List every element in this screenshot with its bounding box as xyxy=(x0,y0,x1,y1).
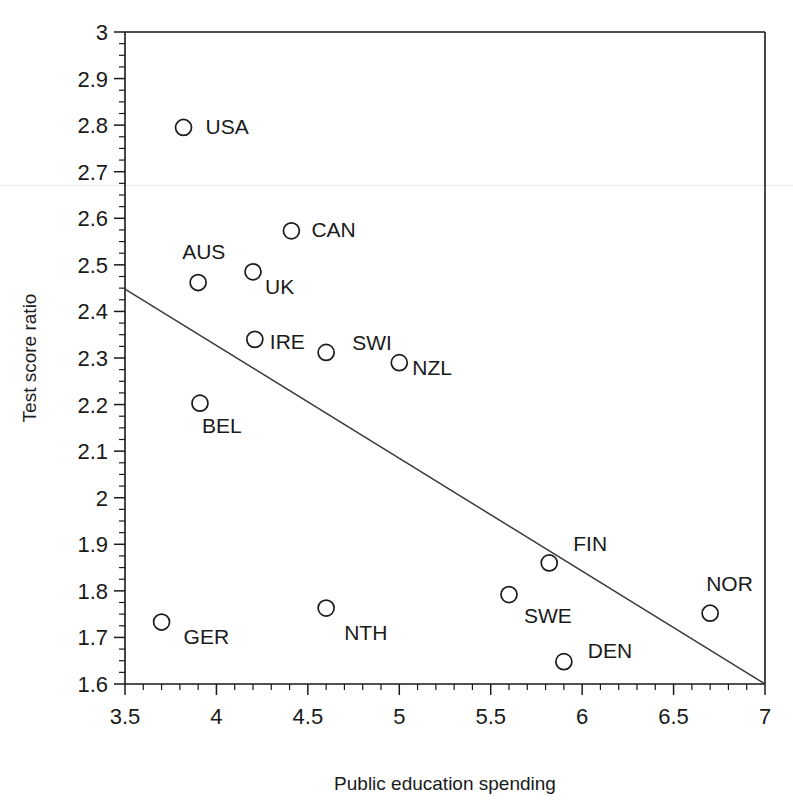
y-tick-label: 1.7 xyxy=(77,625,108,650)
point-label: NZL xyxy=(412,356,452,379)
y-tick-label: 2.3 xyxy=(77,346,108,371)
chart-canvas: 1.61.71.81.922.12.22.32.42.52.62.72.82.9… xyxy=(0,0,793,811)
point-marker xyxy=(247,331,263,347)
data-point-swe: SWE xyxy=(501,587,572,627)
point-marker xyxy=(556,654,572,670)
x-tick-label: 5 xyxy=(393,704,405,729)
data-point-nzl: NZL xyxy=(391,355,452,379)
y-axis-title: Test score ratio xyxy=(19,294,40,423)
point-label: DEN xyxy=(588,639,632,662)
point-label: SWI xyxy=(352,331,392,354)
y-tick-label: 2 xyxy=(96,486,108,511)
x-tick-label: 5.5 xyxy=(475,704,506,729)
x-tick-label: 6 xyxy=(576,704,588,729)
point-marker xyxy=(192,395,208,411)
point-marker xyxy=(318,344,334,360)
point-label: IRE xyxy=(270,330,305,353)
data-points-group: USACANAUSUKIRESWINZLBELFINSWENORDENGERNT… xyxy=(154,115,753,669)
data-point-usa: USA xyxy=(176,115,249,138)
point-marker xyxy=(190,275,206,291)
point-label: FIN xyxy=(573,532,607,555)
point-label: NTH xyxy=(344,621,387,644)
point-label: NOR xyxy=(706,572,753,595)
point-marker xyxy=(702,605,718,621)
y-tick-label: 2.5 xyxy=(77,253,108,278)
y-tick-label: 3 xyxy=(96,20,108,45)
point-marker xyxy=(245,264,261,280)
point-label: BEL xyxy=(202,414,242,437)
y-tick-label: 2.2 xyxy=(77,393,108,418)
x-axis-title: Public education spending xyxy=(334,773,556,794)
point-marker xyxy=(501,587,517,603)
y-tick-label: 2.4 xyxy=(77,299,108,324)
point-marker xyxy=(318,600,334,616)
y-tick-label: 2.1 xyxy=(77,439,108,464)
point-label: GER xyxy=(184,625,230,648)
data-point-can: CAN xyxy=(283,218,355,241)
y-tick-label: 1.9 xyxy=(77,532,108,557)
point-label: CAN xyxy=(311,218,355,241)
data-point-bel: BEL xyxy=(192,395,242,437)
x-tick-label: 4 xyxy=(210,704,222,729)
data-point-ire: IRE xyxy=(247,330,305,353)
y-tick-label: 2.9 xyxy=(77,67,108,92)
point-marker xyxy=(176,119,192,135)
point-marker xyxy=(541,555,557,571)
x-tick-label: 3.5 xyxy=(110,704,141,729)
data-point-nor: NOR xyxy=(702,572,753,621)
x-tick-label: 6.5 xyxy=(658,704,689,729)
y-tick-label: 2.8 xyxy=(77,113,108,138)
data-point-uk: UK xyxy=(245,264,294,298)
point-marker xyxy=(283,223,299,239)
x-tick-label: 4.5 xyxy=(293,704,324,729)
point-label: SWE xyxy=(524,604,572,627)
point-label: USA xyxy=(206,115,249,138)
y-tick-label: 2.6 xyxy=(77,206,108,231)
point-label: UK xyxy=(265,275,294,298)
y-tick-label: 1.6 xyxy=(77,672,108,697)
data-point-aus: AUS xyxy=(182,240,225,291)
point-marker xyxy=(154,614,170,630)
data-point-ger: GER xyxy=(154,614,230,648)
data-point-swi: SWI xyxy=(318,331,392,360)
data-point-nth: NTH xyxy=(318,600,387,644)
y-tick-label: 2.7 xyxy=(77,160,108,185)
scatter-plot-figure: 1.61.71.81.922.12.22.32.42.52.62.72.82.9… xyxy=(0,0,793,811)
x-tick-label: 7 xyxy=(759,704,771,729)
point-label: AUS xyxy=(182,240,225,263)
point-marker xyxy=(391,355,407,371)
data-point-den: DEN xyxy=(556,639,632,670)
y-tick-label: 1.8 xyxy=(77,579,108,604)
